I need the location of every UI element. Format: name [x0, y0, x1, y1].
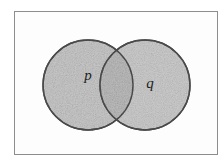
- venn-diagram-figure: p q: [0, 0, 224, 164]
- venn-diagram-canvas: p q: [0, 0, 224, 164]
- set-label-q: q: [146, 75, 154, 91]
- venn-circles-group: [43, 40, 190, 130]
- set-label-p: p: [83, 67, 92, 83]
